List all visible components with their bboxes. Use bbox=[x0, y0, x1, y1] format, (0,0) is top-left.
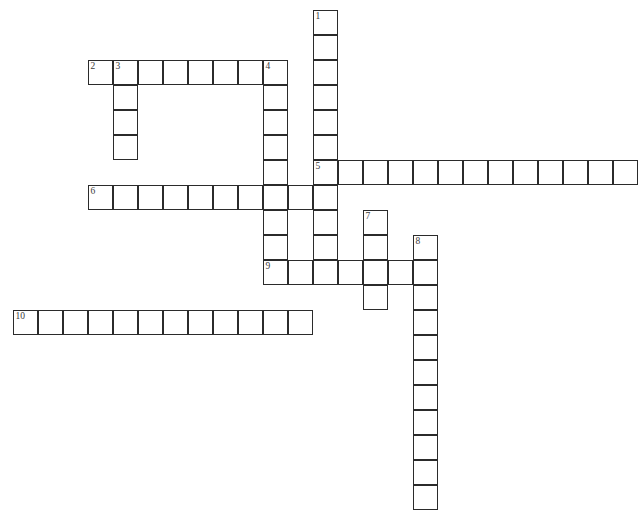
grid-cell[interactable] bbox=[113, 135, 138, 160]
grid-cell[interactable]: 7 bbox=[363, 210, 388, 235]
grid-cell[interactable] bbox=[138, 185, 163, 210]
grid-cell[interactable] bbox=[263, 160, 288, 185]
grid-cell[interactable] bbox=[113, 185, 138, 210]
grid-cell[interactable] bbox=[188, 310, 213, 335]
grid-cell[interactable] bbox=[413, 310, 438, 335]
cell-number: 8 bbox=[416, 236, 421, 246]
grid-cell[interactable] bbox=[388, 260, 413, 285]
grid-cell[interactable] bbox=[463, 160, 488, 185]
cell-number: 6 bbox=[91, 186, 96, 196]
grid-cell[interactable] bbox=[313, 235, 338, 260]
grid-cell[interactable] bbox=[313, 60, 338, 85]
grid-cell[interactable] bbox=[213, 60, 238, 85]
grid-cell[interactable] bbox=[138, 310, 163, 335]
grid-cell[interactable] bbox=[263, 110, 288, 135]
grid-cell[interactable] bbox=[313, 185, 338, 210]
grid-cell[interactable] bbox=[113, 85, 138, 110]
grid-cell[interactable] bbox=[238, 310, 263, 335]
grid-cell[interactable] bbox=[613, 160, 638, 185]
grid-cell[interactable] bbox=[488, 160, 513, 185]
grid-cell[interactable] bbox=[413, 435, 438, 460]
grid-cell[interactable] bbox=[588, 160, 613, 185]
grid-cell[interactable] bbox=[313, 110, 338, 135]
grid-cell[interactable] bbox=[313, 35, 338, 60]
grid-cell[interactable] bbox=[263, 310, 288, 335]
grid-cell[interactable] bbox=[113, 310, 138, 335]
grid-cell[interactable] bbox=[238, 60, 263, 85]
grid-cell[interactable] bbox=[363, 235, 388, 260]
grid-cell[interactable] bbox=[413, 485, 438, 510]
grid-cell[interactable] bbox=[413, 460, 438, 485]
grid-cell[interactable] bbox=[313, 135, 338, 160]
grid-cell[interactable]: 1 bbox=[313, 10, 338, 35]
grid-cell[interactable] bbox=[313, 210, 338, 235]
grid-cell[interactable] bbox=[363, 285, 388, 310]
grid-cell[interactable]: 2 bbox=[88, 60, 113, 85]
grid-cell[interactable] bbox=[188, 60, 213, 85]
grid-cell[interactable] bbox=[413, 385, 438, 410]
grid-cell[interactable]: 8 bbox=[413, 235, 438, 260]
grid-cell[interactable] bbox=[213, 310, 238, 335]
grid-cell[interactable] bbox=[413, 410, 438, 435]
grid-cell[interactable] bbox=[363, 160, 388, 185]
cell-number: 3 bbox=[116, 61, 121, 71]
grid-cell[interactable] bbox=[338, 160, 363, 185]
grid-cell[interactable] bbox=[338, 260, 363, 285]
grid-cell[interactable] bbox=[413, 260, 438, 285]
cell-number: 9 bbox=[266, 261, 271, 271]
grid-cell[interactable] bbox=[263, 235, 288, 260]
grid-cell[interactable] bbox=[263, 185, 288, 210]
grid-cell[interactable] bbox=[413, 160, 438, 185]
grid-cell[interactable] bbox=[388, 160, 413, 185]
grid-cell[interactable] bbox=[288, 260, 313, 285]
grid-cell[interactable] bbox=[263, 85, 288, 110]
grid-cell[interactable] bbox=[438, 160, 463, 185]
cell-number: 10 bbox=[16, 311, 26, 321]
grid-cell[interactable] bbox=[413, 335, 438, 360]
grid-cell[interactable] bbox=[63, 310, 88, 335]
grid-cell[interactable] bbox=[288, 310, 313, 335]
grid-cell[interactable] bbox=[163, 310, 188, 335]
grid-cell[interactable] bbox=[38, 310, 63, 335]
grid-cell[interactable]: 3 bbox=[113, 60, 138, 85]
grid-cell[interactable]: 5 bbox=[313, 160, 338, 185]
cell-number: 1 bbox=[316, 11, 321, 21]
grid-cell[interactable] bbox=[363, 260, 388, 285]
grid-cell[interactable] bbox=[313, 260, 338, 285]
cell-number: 4 bbox=[266, 61, 271, 71]
grid-cell[interactable] bbox=[238, 185, 263, 210]
grid-cell[interactable]: 10 bbox=[13, 310, 38, 335]
grid-cell[interactable] bbox=[188, 185, 213, 210]
grid-cell[interactable] bbox=[513, 160, 538, 185]
grid-cell[interactable] bbox=[138, 60, 163, 85]
grid-cell[interactable] bbox=[263, 135, 288, 160]
grid-cell[interactable] bbox=[263, 210, 288, 235]
cell-number: 5 bbox=[316, 161, 321, 171]
grid-cell[interactable] bbox=[413, 360, 438, 385]
grid-cell[interactable] bbox=[213, 185, 238, 210]
grid-cell[interactable]: 9 bbox=[263, 260, 288, 285]
cell-number: 2 bbox=[91, 61, 96, 71]
grid-cell[interactable] bbox=[538, 160, 563, 185]
cell-number: 7 bbox=[366, 211, 371, 221]
grid-cell[interactable]: 6 bbox=[88, 185, 113, 210]
grid-cell[interactable]: 4 bbox=[263, 60, 288, 85]
grid-cell[interactable] bbox=[563, 160, 588, 185]
grid-cell[interactable] bbox=[313, 85, 338, 110]
grid-cell[interactable] bbox=[163, 60, 188, 85]
grid-cell[interactable] bbox=[163, 185, 188, 210]
grid-cell[interactable] bbox=[413, 285, 438, 310]
grid-cell[interactable] bbox=[113, 110, 138, 135]
grid-cell[interactable] bbox=[288, 185, 313, 210]
grid-cell[interactable] bbox=[88, 310, 113, 335]
